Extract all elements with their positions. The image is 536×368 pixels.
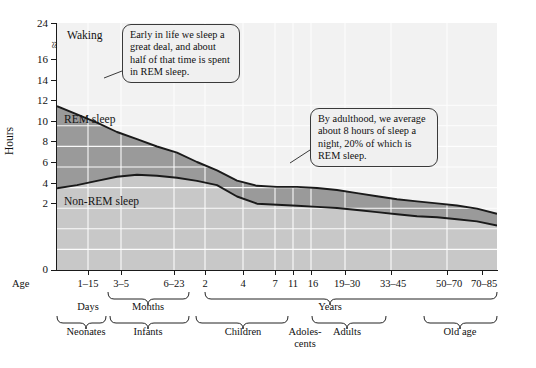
y-tick-label-2: 2 [6,198,48,209]
x-tick-label-6: 11 [288,278,298,289]
callout-early-life: Early in life we sleep a great deal, and… [122,24,240,83]
x-tick-label-2: 6–23 [164,278,185,289]
group-label-months: Months [132,301,164,313]
y-tick-16 [51,59,57,60]
y-tick-label-8: 8 [6,136,48,147]
x-tick-2 [174,270,175,275]
y-tick-6 [51,162,57,163]
x-tick-10 [447,270,448,275]
y-axis-line [56,23,57,270]
group-label-neonates: Neonates [66,326,105,338]
x-tick-0 [88,270,89,275]
x-tick-label-10: 50–70 [436,278,462,289]
x-tick-label-9: 33–45 [380,278,406,289]
group-label-adolescents: Adoles-cents [278,326,332,349]
y-tick-10 [51,121,57,122]
group-label-infants: Infants [133,326,162,338]
x-tick-8 [345,270,346,275]
y-tick-label-0: 0 [6,264,48,275]
x-tick-label-8: 19–30 [334,278,360,289]
y-tick-8 [51,141,57,142]
x-tick-label-0: 1–15 [78,278,99,289]
y-tick-label-6: 6 [6,157,48,168]
x-tick-3 [205,270,206,275]
y-tick-4 [51,183,57,184]
y-tick-12 [51,100,57,101]
x-tick-5 [275,270,276,275]
region-label-non-rem-sleep: Non-REM sleep [64,195,139,207]
y-tick-label-14: 14 [6,75,48,86]
x-tick-label-7: 16 [308,278,319,289]
sleep-across-lifespan-figure: Waking REM sleep Non-REM sleep Hours ≈ 2… [0,0,536,368]
x-axis-age-label: Age [12,278,30,289]
group-label-days: Days [77,301,99,313]
group-label-old-age: Old age [444,326,477,338]
x-tick-7 [311,270,312,275]
y-tick-label-10: 10 [6,116,48,127]
y-tick-label-16: 16 [6,54,48,65]
x-axis-line [56,270,498,271]
y-tick-2 [51,203,57,204]
y-tick-24 [51,23,57,24]
x-tick-6 [293,270,294,275]
y-tick-label-4: 4 [6,178,48,189]
callout-adulthood: By adulthood, we average about 8 hours o… [310,108,438,167]
x-tick-label-4: 4 [240,278,245,289]
x-tick-label-1: 3–5 [113,278,129,289]
x-tick-4 [243,270,244,275]
group-label-children: Children [225,326,262,338]
x-tick-1 [121,270,122,275]
y-tick-label-12: 12 [6,95,48,106]
x-tick-label-3: 2 [202,278,207,289]
x-tick-label-11: 70–85 [471,278,497,289]
group-label-years: Years [318,301,341,313]
x-tick-9 [391,270,392,275]
region-label-waking: Waking [67,29,102,41]
x-tick-11 [482,270,483,275]
y-tick-label-24: 24 [6,18,48,29]
y-tick-14 [51,80,57,81]
y-axis-break-icon: ≈ [49,41,59,48]
x-tick-label-5: 7 [272,278,277,289]
group-label-adults: Adults [333,326,361,338]
region-label-rem-sleep: REM sleep [64,113,115,125]
